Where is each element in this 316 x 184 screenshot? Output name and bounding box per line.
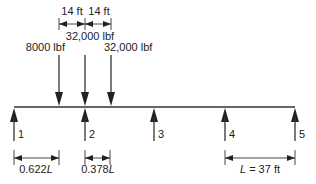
dim-label-14ft-b: 14 ft <box>88 5 109 17</box>
support-1: 1 <box>10 108 24 141</box>
top-dimension: 14 ft 14 ft <box>59 5 111 30</box>
load-label-1: 8000 lbf <box>26 41 66 53</box>
load-arrow-2 <box>81 55 89 106</box>
dim-label: 0.622L <box>19 163 53 175</box>
support-5: 5 <box>291 108 305 141</box>
dim-label: L = 37 ft <box>240 163 280 175</box>
support-4: 4 <box>221 108 235 141</box>
support-label: 1 <box>18 128 24 140</box>
support-label: 3 <box>158 128 164 140</box>
support-2: 2 <box>81 108 95 141</box>
arrow-down-icon <box>107 92 115 106</box>
dim-label: 0.378L <box>81 163 115 175</box>
bottom-dimension-0378L: 0.378L <box>81 150 115 175</box>
dim-label-14ft-a: 14 ft <box>61 5 82 17</box>
bottom-dimension-0622L: 0.622L <box>14 150 59 175</box>
bottom-dimension-L: L = 37 ft <box>225 150 295 175</box>
load-arrow-3 <box>107 55 115 106</box>
support-label: 5 <box>299 128 305 140</box>
beam-diagram: 14 ft 14 ft 8000 lbf 32,000 lbf 32,000 l… <box>0 0 316 184</box>
load-arrow-1 <box>55 55 63 106</box>
arrow-down-icon <box>55 92 63 106</box>
support-3: 3 <box>150 108 164 141</box>
support-label: 4 <box>229 128 235 140</box>
load-label-3: 32,000 lbf <box>104 41 153 53</box>
support-label: 2 <box>89 128 95 140</box>
arrow-down-icon <box>81 92 89 106</box>
